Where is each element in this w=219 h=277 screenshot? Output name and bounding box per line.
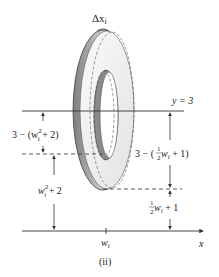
left-lower-dim-label: w2i + 2 (38, 183, 62, 199)
y-equals-3-label: y = 3 (171, 95, 193, 106)
figure-caption: (ii) (99, 256, 111, 268)
washer-diagram: Δxi y = 3 wi x 3 − (w2i + 2) w2i + 2 3 −… (0, 0, 219, 277)
right-upper-dim-label: 3 − ( 1 2 wi + 1) (135, 145, 189, 162)
washer-solid (73, 30, 134, 190)
svg-text:wi + 1: wi + 1 (154, 202, 178, 215)
delta-x-label: Δxi (92, 12, 107, 26)
x-axis-label: x (198, 238, 204, 249)
x-tick-label: wi (101, 237, 110, 250)
svg-text:3 − (: 3 − ( (135, 148, 155, 160)
left-upper-dim-label: 3 − (w2i + 2) (12, 127, 59, 143)
right-lower-dim-label: 1 2 wi + 1 (149, 199, 178, 216)
svg-text:wi + 1): wi + 1) (161, 148, 189, 161)
